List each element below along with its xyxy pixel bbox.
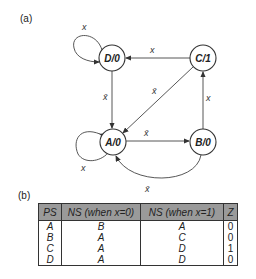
cell-ns-x1: C [141,232,224,243]
state-table-header: PS NS (when x=0) NS (when x=1) Z [39,204,238,221]
cell-ps: C [39,243,62,254]
table-row: D A D 0 [39,254,238,266]
header-ps: PS [39,204,62,221]
state-node-a: A/0 [100,129,126,155]
cell-ps: D [39,254,62,266]
edge-label-c-to-a: x̄ [151,86,157,96]
edge-label-c-to-d: x [149,45,155,55]
cell-ps: A [39,221,62,233]
state-node-a-label: A/0 [104,137,121,148]
edge-label-b-to-c: x [205,93,211,103]
cell-ns-x1: D [141,243,224,254]
cell-ns-x1: D [141,254,224,266]
cell-z: 0 [224,221,238,233]
state-node-d-label: D/0 [104,53,120,64]
table-row: A B A 0 [39,221,238,233]
edge-b-to-a [116,155,201,178]
cell-z: 1 [224,243,238,254]
table-row: C A D 1 [39,243,238,254]
header-z: Z [224,204,238,221]
edge-d-self [74,36,102,63]
cell-ns-x0: A [62,254,141,266]
edge-label-d-self: x [81,22,87,32]
cell-ns-x0: B [62,221,141,233]
state-node-d: D/0 [99,45,125,71]
edge-c-to-a [123,67,193,133]
edge-label-a-to-b: x̄ [143,128,149,138]
table-row: B A C 0 [39,232,238,243]
cell-ns-x0: A [62,243,141,254]
header-ns-x0: NS (when x=0) [62,204,141,221]
state-node-b: B/0 [190,129,216,155]
edge-label-a-self: x [80,163,86,173]
part-b-label: (b) [18,190,30,201]
state-diagram: x x x̄ x̄ x x̄ x x̄ D/0 C/1 A/0 B/0 [0,0,256,200]
state-node-c: C/1 [190,45,216,71]
cell-ps: B [39,232,62,243]
edge-label-b-to-a: x̄ [144,184,150,194]
edge-label-d-to-a: x̄ [102,92,108,102]
cell-ns-x1: A [141,221,224,233]
state-table: PS NS (when x=0) NS (when x=1) Z A B A 0… [38,203,238,266]
header-ns-x1: NS (when x=1) [141,204,224,221]
cell-z: 0 [224,254,238,266]
cell-z: 0 [224,232,238,243]
state-node-b-label: B/0 [195,137,211,148]
cell-ns-x0: A [62,232,141,243]
state-node-c-label: C/1 [195,53,211,64]
